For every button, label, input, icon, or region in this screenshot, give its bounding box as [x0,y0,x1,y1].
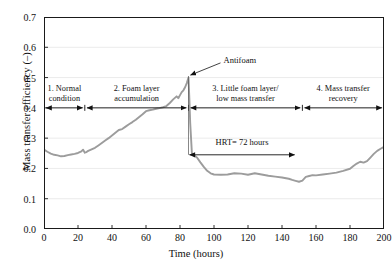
hrt-annotation-label: HRT= 72 hours [197,137,287,147]
y-tick-label: 0.5 [10,72,36,83]
x-tick-label: 140 [275,232,290,243]
x-tick-label: 60 [141,232,151,243]
x-tick-label: 180 [343,232,358,243]
y-tick-label: 0.2 [10,163,36,174]
x-tick-label: 200 [377,232,392,243]
x-axis-tick-labels: 020406080100120140160180200 [0,232,392,248]
phase-label-3: 3. Little foam layer/ low mass transfer [190,84,300,104]
y-tick-label: 0.1 [10,193,36,204]
antifoam-annotation-label: Antifoam [224,55,257,65]
phase-label-2: 2. Foam layer accumulation [82,84,192,104]
x-tick-label: 160 [309,232,324,243]
plot-area [44,17,384,229]
y-tick-label: 0.7 [10,12,36,23]
y-tick-label: 0.3 [10,133,36,144]
chart-figure: Mass transfer efficiency (–) 0.00.10.20.… [0,0,392,270]
y-tick-label: 0.4 [10,102,36,113]
x-tick-label: 40 [107,232,117,243]
x-tick-label: 0 [42,232,47,243]
x-tick-label: 80 [175,232,185,243]
y-tick-label: 0.6 [10,42,36,53]
x-axis-title: Time (hours) [0,248,392,259]
chart-svg [44,17,384,229]
x-tick-label: 120 [241,232,256,243]
phase-label-4: 4. Mass transfer recovery [288,84,392,104]
x-tick-label: 100 [207,232,222,243]
y-axis-tick-labels: 0.00.10.20.30.40.50.60.7 [6,0,36,270]
x-tick-label: 20 [73,232,83,243]
